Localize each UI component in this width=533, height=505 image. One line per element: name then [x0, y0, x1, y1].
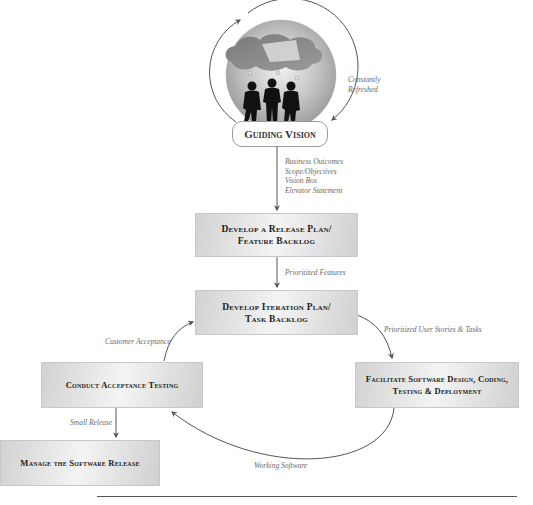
guiding-vision-label: Guiding Vision: [232, 121, 328, 147]
manage-release-box: Manage the Software Release: [0, 440, 160, 486]
release-plan-box: Develop a Release Plan/ Feature Backlog: [195, 213, 358, 257]
facilitate-box: Facilitate Software Design, Coding, Test…: [355, 362, 519, 408]
constantly-refreshed-label: Constantly Refreshed: [348, 75, 381, 94]
release-plan-line1: Develop a Release Plan/: [221, 223, 331, 235]
manage-release-line1: Manage the Software Release: [20, 457, 139, 469]
release-plan-line2: Feature Backlog: [221, 235, 331, 247]
acceptance-testing-box: Conduct Acceptance Testing: [41, 362, 203, 408]
iteration-plan-box: Develop Iteration Plan/ Task Backlog: [195, 290, 358, 335]
cycle-label-line2: Refreshed: [348, 85, 381, 95]
agile-process-diagram: Guiding Vision Constantly Refreshed Busi…: [0, 0, 533, 505]
iteration-plan-line2: Task Backlog: [222, 313, 331, 325]
facilitate-line1: Facilitate Software Design, Coding,: [366, 373, 508, 385]
prioritized-stories-label: Prioritized User Stories & Tasks: [384, 325, 482, 335]
facilitate-line2: Testing & Deployment: [366, 385, 508, 397]
vision-illustration: [226, 20, 336, 130]
acceptance-line1: Conduct Acceptance Testing: [66, 379, 179, 391]
output-business-outcomes: Business Outcomes: [285, 157, 343, 167]
output-elevator-statement: Elevator Statement: [285, 186, 343, 196]
working-software-label: Working Software: [254, 461, 307, 471]
footer-divider: [97, 496, 517, 497]
small-release-label: Small Release: [70, 418, 112, 428]
prioritized-features-label: Prioritized Features: [285, 268, 346, 278]
cycle-label-line1: Constantly: [348, 75, 381, 85]
customer-acceptance-label: Customer Acceptance: [105, 337, 170, 347]
iteration-plan-line1: Develop Iteration Plan/: [222, 301, 331, 313]
output-vision-box: Vision Box: [285, 176, 343, 186]
output-scope-objectives: Scope/Objectives: [285, 167, 343, 177]
vision-outputs-list: Business Outcomes Scope/Objectives Visio…: [285, 157, 343, 195]
